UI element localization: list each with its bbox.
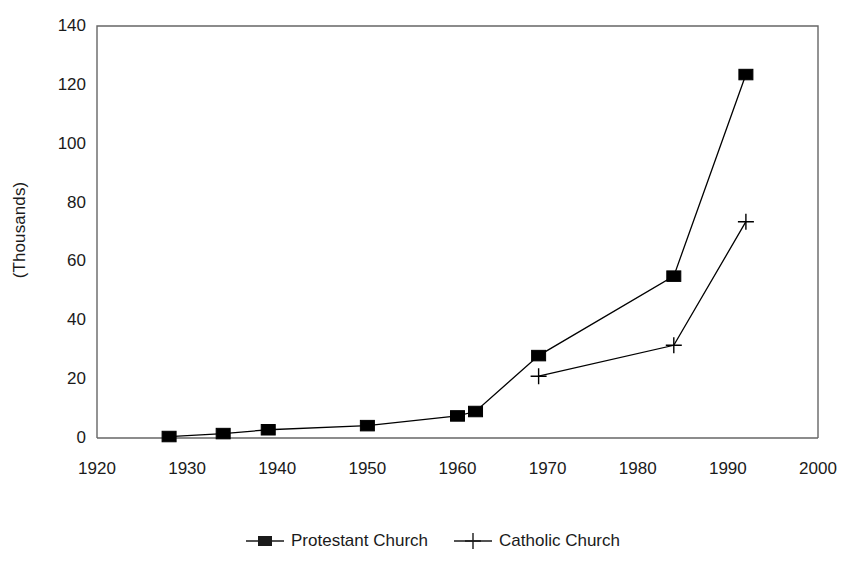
series-catholic-church bbox=[531, 214, 754, 385]
plot-area bbox=[0, 0, 866, 500]
plus-marker-icon bbox=[454, 533, 492, 549]
line-chart: (Thousands) 020406080100120140 192019301… bbox=[0, 0, 866, 578]
data-point-square-marker bbox=[216, 428, 230, 439]
legend-item-label: Protestant Church bbox=[291, 531, 428, 551]
data-point-plus-marker bbox=[738, 214, 754, 230]
legend-item[interactable]: Catholic Church bbox=[454, 531, 620, 551]
data-point-square-marker bbox=[739, 69, 753, 80]
data-point-square-marker bbox=[532, 350, 546, 361]
data-point-square-marker bbox=[162, 431, 176, 442]
legend-item-label: Catholic Church bbox=[499, 531, 620, 551]
series-protestant-church bbox=[162, 69, 753, 441]
legend-item[interactable]: Protestant Church bbox=[246, 531, 428, 551]
data-point-square-marker bbox=[261, 425, 275, 436]
data-point-square-marker bbox=[360, 420, 374, 431]
plot-frame bbox=[97, 26, 818, 438]
data-point-plus-marker bbox=[531, 368, 547, 384]
square-marker-icon bbox=[246, 533, 284, 549]
data-point-square-marker bbox=[451, 411, 465, 422]
data-point-square-marker bbox=[667, 271, 681, 282]
data-point-plus-marker bbox=[666, 337, 682, 353]
chart-legend: Protestant ChurchCatholic Church bbox=[0, 520, 866, 562]
data-point-square-marker bbox=[469, 406, 483, 417]
data-series-group bbox=[162, 69, 754, 441]
